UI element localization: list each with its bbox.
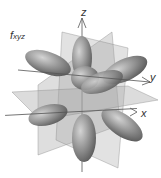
orbital-subscript: xyz [13,32,25,41]
z-axis-label: z [81,6,87,18]
x-axis-label: x [141,107,147,119]
lobe-lower-center [72,114,96,162]
orbital-diagram [0,0,161,178]
orbital-label: fxyz [10,29,25,41]
y-axis-label: y [150,71,156,83]
